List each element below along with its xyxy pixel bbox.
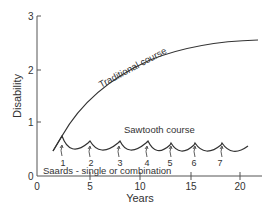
sawtooth-course-label: Sawtooth course (124, 124, 195, 135)
traditional-course-label: Traditional course (97, 45, 169, 90)
x-tick-label-0: 0 (34, 181, 40, 192)
y-tick-label-0: 0 (28, 171, 34, 182)
x-axis-title: Years (126, 192, 154, 204)
x-tick-label-5: 5 (87, 181, 93, 192)
x-tick-label-10: 10 (134, 181, 146, 192)
saard-number-6: 6 (191, 158, 196, 168)
x-tick-label-20: 20 (234, 181, 246, 192)
y-axis-title: Disability (11, 73, 23, 118)
y-tick-label-2: 2 (28, 65, 34, 76)
sawtooth-course-line (53, 136, 248, 151)
x-tick-label-15: 15 (185, 181, 197, 192)
y-tick-label-1: 1 (28, 117, 34, 128)
y-tick-label-3: 3 (28, 11, 34, 22)
saards-label: Saards - single or combination (43, 165, 171, 176)
saard-number-7: 7 (217, 158, 222, 168)
chart: 3 2 1 0 Disability 0 5 10 15 20 Years Tr… (0, 0, 276, 213)
